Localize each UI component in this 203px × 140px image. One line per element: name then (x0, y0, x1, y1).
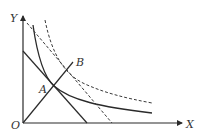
income-expansion-line (23, 62, 73, 123)
x-axis-label: X (186, 119, 194, 130)
y-axis-label: Y (10, 13, 17, 24)
point-a-label: A (39, 84, 47, 95)
origin-label: O (11, 120, 20, 131)
diagram-canvas (0, 0, 203, 140)
point-b-label: B (76, 57, 84, 68)
budget-line-2 (27, 23, 112, 123)
